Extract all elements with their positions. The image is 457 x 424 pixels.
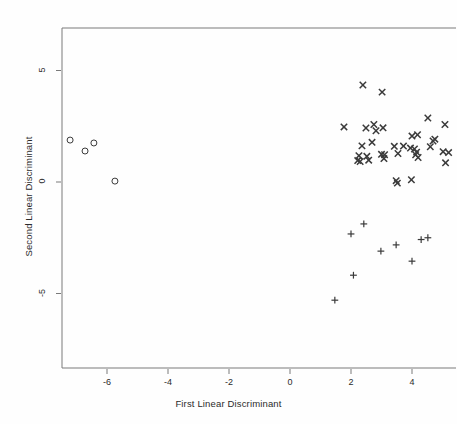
data-point-x <box>379 89 385 95</box>
data-point-x <box>409 133 415 139</box>
data-point-x <box>395 150 401 156</box>
data-point-plus <box>331 297 338 304</box>
data-point-x <box>360 82 366 88</box>
data-point-plus <box>348 231 355 238</box>
data-point-x <box>373 128 379 134</box>
data-point-x <box>442 160 448 166</box>
x-tick-label: -2 <box>217 377 241 387</box>
data-point-plus <box>409 258 416 265</box>
data-point-plus <box>418 236 425 243</box>
y-axis-label: Second Linear Discriminant <box>23 117 34 277</box>
data-point-circle <box>112 178 118 184</box>
x-tick-label: -6 <box>95 377 119 387</box>
x-tick-label: -4 <box>156 377 180 387</box>
data-point-circle <box>82 148 88 154</box>
data-point-x <box>380 125 386 131</box>
data-point-plus <box>350 272 357 279</box>
x-axis-label: First Linear Discriminant <box>0 398 457 409</box>
x-tick-label: 4 <box>400 377 424 387</box>
y-tick-label: 5 <box>37 59 47 81</box>
y-tick-label: -5 <box>37 282 47 304</box>
data-point-x <box>414 132 420 138</box>
data-point-plus <box>393 241 400 248</box>
y-tick-label: 0 <box>37 170 47 192</box>
plot-canvas <box>0 0 457 424</box>
x-tick-label: 0 <box>278 377 302 387</box>
scatter-plot-figure: First Linear Discriminant Second Linear … <box>0 0 457 424</box>
data-point-plus <box>424 234 431 241</box>
data-point-x <box>341 124 347 130</box>
data-point-x <box>391 143 397 149</box>
data-point-x <box>415 154 421 160</box>
x-tick-label: 2 <box>339 377 363 387</box>
data-point-circle <box>91 140 97 146</box>
data-points <box>67 82 452 304</box>
data-point-x <box>359 143 365 149</box>
data-point-x <box>432 136 438 142</box>
data-point-circle <box>67 137 73 143</box>
data-point-x <box>408 177 414 183</box>
data-point-x <box>369 139 375 145</box>
data-point-x <box>425 115 431 121</box>
data-point-x <box>400 143 406 149</box>
data-point-x <box>363 125 369 131</box>
data-point-x <box>371 121 377 127</box>
data-point-plus <box>377 248 384 255</box>
data-point-plus <box>360 221 367 228</box>
data-point-x <box>445 149 451 155</box>
data-point-x <box>442 121 448 127</box>
